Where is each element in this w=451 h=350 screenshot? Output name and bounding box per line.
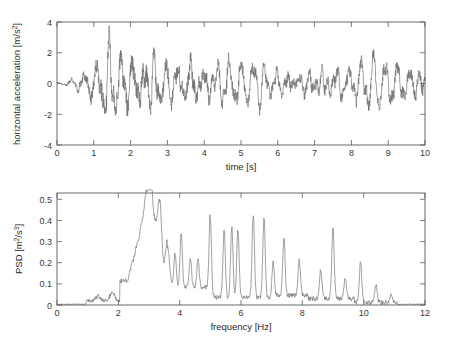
x-tick-label-bottom-0: 0 [54, 308, 59, 318]
acceleration-timeseries-svg: horizontal acceleration [m/s2] 4 2 0 -2 [0, 0, 451, 178]
x-tick-label-top-7: 7 [312, 148, 317, 158]
y-axis-label-psd-tail: ] [13, 224, 24, 227]
y-tick-label-bottom-1: 0.1 [39, 279, 52, 289]
x-tick-label-top-4: 4 [202, 148, 207, 158]
x-tick-label-bottom-3: 6 [238, 308, 243, 318]
y-axis-label-acceleration: horizontal acceleration [m/s2] [11, 23, 22, 145]
x-tick-label-bottom-5: 10 [359, 308, 369, 318]
y-tick-label-bottom-0: 0 [47, 301, 52, 311]
y-axis-label-psd-text: PSD [m [13, 241, 24, 274]
y-tick-label-top-2: 0 [47, 79, 52, 89]
x-tick-label-top-5: 5 [238, 148, 243, 158]
x-axis-label-frequency: frequency [Hz] [210, 321, 271, 332]
svg-text:PSD [m2/s3]: PSD [m2/s3] [13, 224, 24, 274]
y-tick-label-top-1: -2 [44, 110, 52, 120]
x-tick-label-bottom-1: 2 [116, 308, 121, 318]
y-tick-label-top-3: 2 [47, 48, 52, 58]
x-tick-label-bottom-6: 12 [420, 308, 430, 318]
y-tick-label-bottom-3: 0.3 [39, 237, 52, 247]
y-axis-label-acceleration-tail: ] [11, 23, 22, 26]
x-tick-label-top-10: 10 [420, 148, 430, 158]
y-axis-label-psd: PSD [m2/s3] [13, 224, 24, 274]
figure-container: horizontal acceleration [m/s2] 4 2 0 -2 [0, 0, 451, 350]
y-tick-label-top-0: -4 [44, 141, 52, 151]
x-tick-label-top-1: 1 [91, 148, 96, 158]
x-tick-label-top-9: 9 [386, 148, 391, 158]
x-tick-label-bottom-2: 4 [177, 308, 182, 318]
psd-spectrum-panel: PSD [m2/s3] 0 0.1 0.2 0.3 0. [0, 172, 451, 350]
plot-background-bottom [57, 193, 425, 305]
svg-text:horizontal acceleration [m/s2]: horizontal acceleration [m/s2] [11, 23, 22, 145]
x-tick-label-top-3: 3 [165, 148, 170, 158]
psd-spectrum-svg: PSD [m2/s3] 0 0.1 0.2 0.3 0. [0, 172, 451, 350]
y-tick-label-bottom-2: 0.2 [39, 258, 52, 268]
x-tick-label-top-8: 8 [349, 148, 354, 158]
y-axis-label-acceleration-text: horizontal acceleration [m/s [11, 29, 22, 145]
y-tick-label-bottom-5: 0.5 [39, 195, 52, 205]
acceleration-timeseries-panel: horizontal acceleration [m/s2] 4 2 0 -2 [0, 0, 451, 178]
x-tick-label-top-6: 6 [275, 148, 280, 158]
plot-background-top [57, 22, 425, 145]
x-tick-label-top-0: 0 [54, 148, 59, 158]
x-tick-label-top-2: 2 [128, 148, 133, 158]
x-axis-label-time: time [s] [226, 161, 257, 172]
y-tick-label-top-4: 4 [47, 18, 52, 28]
x-tick-label-bottom-4: 8 [300, 308, 305, 318]
y-tick-label-bottom-4: 0.4 [39, 216, 52, 226]
